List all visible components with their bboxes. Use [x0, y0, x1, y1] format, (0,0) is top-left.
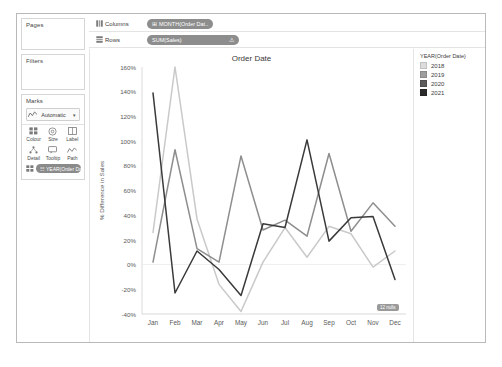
- calendar-icon: ⊞: [152, 21, 157, 27]
- colour-legend: YEAR(Order Date) 2018201920202021: [413, 49, 485, 342]
- legend-item-label: 2018: [431, 63, 444, 69]
- mark-type-dropdown[interactable]: Automatic ▾: [26, 108, 80, 121]
- marks-detail-button[interactable]: Detail: [24, 144, 43, 163]
- marks-button-grid: Colour Size: [22, 125, 84, 163]
- size-icon: [47, 126, 59, 136]
- y-axis-tick-label: 80%: [124, 162, 137, 169]
- rows-pill[interactable]: SUM(Sales) ⚠: [147, 35, 239, 45]
- y-axis-title: % Difference in Sales: [98, 161, 105, 220]
- marks-size-label: Size: [48, 136, 58, 142]
- legend-swatch: [420, 89, 427, 96]
- rows-pill-label: SUM(Sales): [152, 37, 182, 43]
- x-axis-tick-label: Jun: [258, 319, 269, 326]
- series-line[interactable]: [153, 93, 395, 296]
- plot-area[interactable]: 160%140%120%100%80%60%40%20%0%-20%-40%% …: [90, 49, 413, 342]
- chevron-down-icon[interactable]: ▾: [70, 110, 79, 120]
- rows-shelf[interactable]: Rows SUM(Sales) ⚠: [89, 32, 485, 48]
- columns-icon: [93, 20, 105, 27]
- y-axis-tick-label: -20%: [122, 286, 137, 293]
- y-axis-tick-label: 20%: [124, 237, 137, 244]
- y-axis-tick-label: 120%: [120, 113, 136, 120]
- legend-swatch: [420, 80, 427, 87]
- warning-icon[interactable]: ⚠: [229, 36, 234, 43]
- marks-colour-pill-label: YEAR(Order Date): [46, 166, 81, 172]
- marks-path-label: Path: [67, 155, 77, 161]
- calendar-icon: ☷: [40, 166, 44, 172]
- legend-items: 2018201920202021: [420, 62, 485, 96]
- columns-shelf[interactable]: Columns ⊞ MONTH(Order Dat..: [89, 16, 485, 32]
- x-axis-tick-label: Nov: [367, 319, 379, 326]
- x-axis-tick-label: Dec: [389, 319, 401, 326]
- y-axis-tick-label: 100%: [120, 138, 136, 145]
- legend-item[interactable]: 2018: [420, 62, 485, 69]
- label-icon: [66, 126, 78, 136]
- y-axis-tick-label: 140%: [120, 88, 136, 95]
- x-axis-tick-label: Feb: [169, 319, 180, 326]
- legend-item[interactable]: 2021: [420, 89, 485, 96]
- columns-shelf-label: Columns: [105, 21, 139, 27]
- tooltip-icon: [47, 145, 59, 155]
- pages-card-title: Pages: [22, 19, 84, 30]
- left-cards-column: Pages Filters Marks Automatic ▾: [17, 14, 89, 342]
- line-mark-icon: [27, 111, 37, 118]
- pages-card[interactable]: Pages: [21, 18, 85, 50]
- shelves-area: Columns ⊞ MONTH(Order Dat.. Rows SUM(Sal…: [89, 14, 485, 49]
- x-axis-tick-label: Jul: [281, 319, 289, 326]
- colour-icon: [28, 126, 40, 136]
- x-axis-tick-label: May: [235, 319, 248, 327]
- mark-type-label: Automatic: [37, 112, 70, 118]
- chart-region: Order Date 160%140%120%100%80%60%40%20%0…: [89, 49, 485, 342]
- x-axis-tick-label: Mar: [191, 319, 203, 326]
- x-axis-tick-label: Oct: [346, 319, 356, 326]
- filters-card-title: Filters: [22, 55, 84, 66]
- marks-card-title: Marks: [22, 95, 84, 106]
- y-axis-tick-label: 60%: [124, 187, 137, 194]
- y-axis-tick-label: 40%: [124, 212, 137, 219]
- marks-size-button[interactable]: Size: [43, 125, 62, 144]
- x-axis-tick-label: Aug: [301, 319, 313, 327]
- colour-encoding-icon: [26, 165, 34, 173]
- filters-card[interactable]: Filters: [21, 54, 85, 90]
- y-axis-tick-label: 0%: [127, 261, 136, 268]
- legend-swatch: [420, 62, 427, 69]
- x-axis-tick-label: Jan: [148, 319, 159, 326]
- marks-label-label: Label: [66, 136, 78, 142]
- legend-item-label: 2019: [431, 72, 444, 78]
- legend-item-label: 2021: [431, 90, 444, 96]
- path-icon: [66, 145, 78, 155]
- marks-tooltip-label: Tooltip: [46, 155, 60, 161]
- nulls-badge[interactable]: 12 nulls: [377, 304, 399, 311]
- marks-colour-button[interactable]: Colour: [24, 125, 43, 144]
- columns-pill[interactable]: ⊞ MONTH(Order Dat..: [147, 19, 213, 29]
- legend-item[interactable]: 2020: [420, 80, 485, 87]
- x-axis-tick-label: Apr: [214, 319, 225, 327]
- rows-icon: [93, 36, 105, 43]
- legend-swatch: [420, 71, 427, 78]
- detail-icon: [28, 145, 40, 155]
- tableau-worksheet-window: Pages Filters Marks Automatic ▾: [16, 13, 486, 343]
- marks-tooltip-button[interactable]: Tooltip: [43, 144, 62, 163]
- marks-card[interactable]: Marks Automatic ▾: [21, 94, 85, 180]
- x-axis-tick-label: Sep: [323, 319, 335, 327]
- y-axis-tick-label: -40%: [122, 311, 137, 318]
- legend-title: YEAR(Order Date): [420, 53, 485, 59]
- marks-detail-label: Detail: [27, 155, 40, 161]
- line-chart-svg: 160%140%120%100%80%60%40%20%0%-20%-40%% …: [90, 49, 416, 344]
- columns-pill-label: MONTH(Order Dat..: [159, 21, 208, 27]
- legend-item[interactable]: 2019: [420, 71, 485, 78]
- marks-path-button[interactable]: Path: [63, 144, 82, 163]
- rows-shelf-label: Rows: [105, 37, 139, 43]
- legend-item-label: 2020: [431, 81, 444, 87]
- marks-colour-label: Colour: [26, 136, 41, 142]
- marks-label-button[interactable]: Label: [63, 125, 82, 144]
- series-line[interactable]: [153, 67, 395, 312]
- marks-colour-encoding-row[interactable]: ☷ YEAR(Order Date): [22, 163, 84, 173]
- y-axis-tick-label: 160%: [120, 64, 136, 71]
- marks-colour-pill[interactable]: ☷ YEAR(Order Date): [36, 164, 81, 173]
